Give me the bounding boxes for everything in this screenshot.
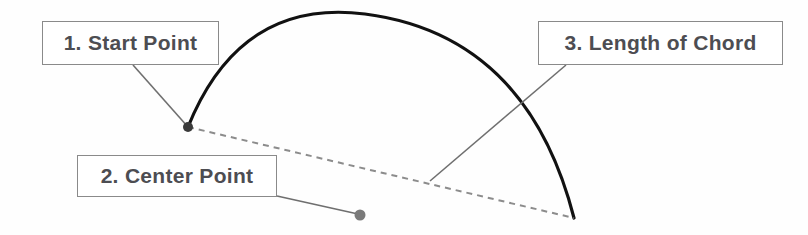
callout-length-of-chord-label: 3. Length of Chord xyxy=(564,31,756,55)
callout-start-point-label: 1. Start Point xyxy=(64,31,198,55)
callout-center-point-label: 2. Center Point xyxy=(101,164,254,188)
leader-length-of-chord xyxy=(430,65,566,181)
diagram-canvas: 1. Start Point 2. Center Point 3. Length… xyxy=(0,0,808,235)
center-point-dot xyxy=(355,210,366,221)
callout-length-of-chord: 3. Length of Chord xyxy=(538,21,783,65)
callout-start-point: 1. Start Point xyxy=(42,21,219,65)
leader-center-point xyxy=(277,196,358,214)
callout-center-point: 2. Center Point xyxy=(77,155,277,197)
leader-start-point xyxy=(133,65,188,127)
start-point-dot xyxy=(183,122,193,132)
